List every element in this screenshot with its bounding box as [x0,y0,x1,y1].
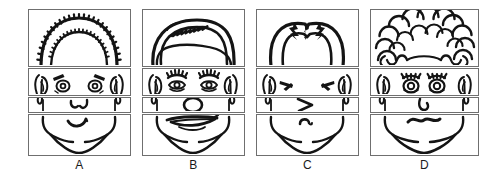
hair-strip-d[interactable] [370,9,479,67]
mouth-strip-a[interactable] [28,114,131,156]
face-label-d: D [370,158,479,172]
face-column-d: D [370,0,479,177]
face-strips-puzzle: ABCD [0,0,497,177]
face-column-b: B [142,0,245,177]
face-label-b: B [142,158,245,172]
eyes-strip-c[interactable] [256,68,359,96]
nose-strip-b[interactable] [142,97,245,113]
mouth-strip-d[interactable] [370,114,479,156]
nose-strip-c[interactable] [256,97,359,113]
hair-strip-c[interactable] [256,9,359,67]
hair-strip-a[interactable] [28,9,131,67]
eyes-strip-a[interactable] [28,68,131,96]
mouth-strip-b[interactable] [142,114,245,156]
face-column-a: A [28,0,131,177]
eyes-strip-d[interactable] [370,68,479,96]
nose-strip-d[interactable] [370,97,479,113]
face-label-a: A [28,158,131,172]
face-label-c: C [256,158,359,172]
nose-strip-a[interactable] [28,97,131,113]
face-column-c: C [256,0,359,177]
hair-strip-b[interactable] [142,9,245,67]
mouth-strip-c[interactable] [256,114,359,156]
eyes-strip-b[interactable] [142,68,245,96]
